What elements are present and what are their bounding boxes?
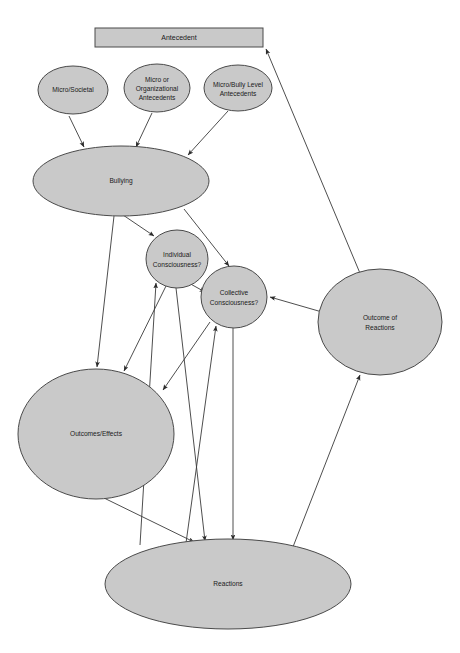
edge-individual-consciousness-to-outcomes-effects xyxy=(124,286,166,371)
node-layer: Antecedent Micro/Societal Micro or Organ… xyxy=(18,28,442,629)
outcome-of-reactions-ellipse[interactable] xyxy=(318,269,442,375)
collective-consciousness-ellipse[interactable] xyxy=(201,266,267,328)
node-micro-organizational[interactable]: Micro or Organizational Antecedents xyxy=(124,64,190,112)
individual-consciousness-label-line2: Consciousness? xyxy=(153,261,202,268)
node-reactions[interactable]: Reactions xyxy=(105,539,351,629)
edge-outcome-of-reactions-to-antecedent xyxy=(266,49,362,278)
micro-organizational-label-line1: Micro or xyxy=(145,76,170,83)
individual-consciousness-ellipse[interactable] xyxy=(146,230,208,288)
edge-bullying-to-outcomes-effects xyxy=(97,216,114,367)
edge-reactions-to-collective-consciousness xyxy=(186,326,216,543)
micro-societal-label: Micro/Societal xyxy=(52,86,94,93)
node-individual-consciousness[interactable]: Individual Consciousness? xyxy=(146,230,208,288)
node-outcome-of-reactions[interactable]: Outcome of Reactions xyxy=(318,269,442,375)
individual-consciousness-label-line1: Individual xyxy=(163,251,191,258)
collective-consciousness-label-line2: Consciousness? xyxy=(210,299,259,306)
edge-outcome-of-reactions-to-collective-consciousness xyxy=(270,297,322,312)
edge-outcomes-effects-to-reactions xyxy=(104,498,194,542)
collective-consciousness-label-line1: Collective xyxy=(220,289,249,296)
micro-bully-level-label-line2: Antecedents xyxy=(220,90,257,97)
micro-organizational-label-line3: Antecedents xyxy=(139,94,176,101)
node-outcomes-effects[interactable]: Outcomes/Effects xyxy=(18,369,174,499)
bullying-process-diagram: Antecedent Micro/Societal Micro or Organ… xyxy=(0,0,460,653)
edge-micro-organizational-to-bullying xyxy=(136,113,152,147)
edge-individual-consciousness-to-reactions xyxy=(176,288,205,541)
outcomes-effects-label: Outcomes/Effects xyxy=(70,430,123,437)
edge-micro-societal-to-bullying xyxy=(69,116,84,147)
node-micro-bully-level[interactable]: Micro/Bully Level Antecedents xyxy=(204,65,272,111)
bullying-label: Bullying xyxy=(109,177,132,185)
outcome-of-reactions-label-line2: Reactions xyxy=(365,324,395,331)
node-antecedent[interactable]: Antecedent xyxy=(95,28,263,47)
antecedent-label: Antecedent xyxy=(161,34,196,41)
node-bullying[interactable]: Bullying xyxy=(33,146,209,216)
micro-bully-level-ellipse[interactable] xyxy=(204,65,272,111)
edge-bullying-to-individual-consciousness xyxy=(123,215,154,236)
edge-micro-bully-level-to-bullying xyxy=(188,111,228,155)
edge-reactions-to-outcome-of-reactions xyxy=(291,375,360,552)
outcome-of-reactions-label-line1: Outcome of xyxy=(363,314,397,321)
reactions-label: Reactions xyxy=(213,580,243,587)
node-micro-societal[interactable]: Micro/Societal xyxy=(38,66,108,114)
micro-bully-level-label-line1: Micro/Bully Level xyxy=(213,81,263,89)
micro-organizational-label-line2: Organizational xyxy=(136,85,179,93)
diagram-canvas: Antecedent Micro/Societal Micro or Organ… xyxy=(0,0,460,653)
node-collective-consciousness[interactable]: Collective Consciousness? xyxy=(201,266,267,328)
